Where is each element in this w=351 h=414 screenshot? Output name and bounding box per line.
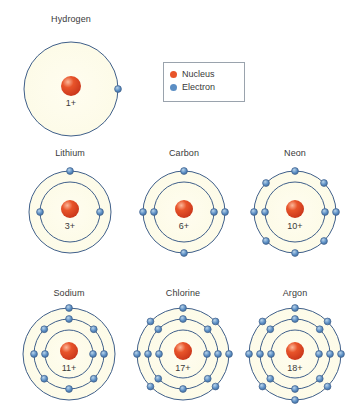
electron (263, 238, 270, 245)
atom-argon: Argon18+ (240, 288, 350, 413)
electron (262, 209, 269, 216)
electron (316, 375, 323, 382)
electron (316, 351, 323, 358)
electron (155, 375, 162, 382)
electron (324, 318, 331, 325)
electron (97, 209, 104, 216)
atom-hydrogen: Hydrogen1+ (12, 14, 130, 152)
nucleus (60, 342, 78, 360)
electron (211, 209, 218, 216)
electron (134, 351, 141, 358)
nucleus-charge-label: 1+ (66, 98, 76, 108)
electron (147, 318, 154, 325)
electron (316, 326, 323, 333)
electron (324, 383, 331, 390)
atom-shell-graphic: 1+ (12, 14, 130, 152)
nucleus (175, 200, 193, 218)
atom-diagram: Hydrogen1+Lithium3+Carbon6+Neon10+Sodium… (0, 0, 351, 414)
atom-shell-graphic: 6+ (132, 148, 236, 268)
electron (151, 209, 158, 216)
electron (204, 326, 211, 333)
legend-item-label: Nucleus (182, 70, 215, 79)
electron (251, 209, 258, 216)
electron (181, 168, 188, 175)
electron (42, 351, 49, 358)
legend-item-label: Electron (182, 83, 215, 92)
electron (90, 351, 97, 358)
atom-shell-graphic: 10+ (243, 148, 347, 268)
nucleus (61, 76, 81, 96)
nucleus-charge-label: 6+ (179, 221, 189, 231)
electron (215, 351, 222, 358)
electron (246, 351, 253, 358)
electron (226, 351, 233, 358)
electron (212, 318, 219, 325)
electron (321, 238, 328, 245)
legend-item-electron: Electron (170, 81, 236, 94)
electron (101, 351, 108, 358)
electron (292, 250, 299, 257)
electron (67, 168, 74, 175)
electron (267, 375, 274, 382)
nucleus (174, 342, 192, 360)
electron (37, 209, 44, 216)
electron (292, 397, 299, 404)
electron (145, 351, 152, 358)
electron (212, 383, 219, 390)
nucleus-charge-label: 3+ (65, 221, 75, 231)
nucleus (61, 200, 79, 218)
electron (204, 375, 211, 382)
electron (147, 383, 154, 390)
atom-shell-graphic: 11+ (14, 288, 124, 413)
nucleus-charge-label: 11+ (62, 363, 77, 373)
atom-carbon: Carbon6+ (132, 148, 236, 268)
atom-sodium: Sodium11+ (14, 288, 124, 413)
electron (321, 180, 328, 187)
electron (263, 180, 270, 187)
electron (259, 383, 266, 390)
atom-shell-graphic: 3+ (18, 148, 122, 268)
electron (90, 326, 97, 333)
electron (41, 326, 48, 333)
electron (115, 86, 122, 93)
electron (338, 351, 345, 358)
nucleus-charge-label: 10+ (287, 221, 302, 231)
nucleus-swatch-icon (170, 71, 177, 78)
electron (180, 305, 187, 312)
electron (292, 316, 299, 323)
nucleus (286, 342, 304, 360)
electron (322, 209, 329, 216)
atom-neon: Neon10+ (243, 148, 347, 268)
electron (66, 386, 73, 393)
atom-lithium: Lithium3+ (18, 148, 122, 268)
legend: NucleusElectron (163, 62, 245, 102)
electron (66, 316, 73, 323)
electron (180, 386, 187, 393)
nucleus-charge-label: 18+ (287, 363, 302, 373)
electron (181, 250, 188, 257)
nucleus (286, 200, 304, 218)
electron (204, 351, 211, 358)
electron (257, 351, 264, 358)
electron (140, 209, 147, 216)
electron (41, 375, 48, 382)
electron (268, 351, 275, 358)
nucleus-charge-label: 17+ (175, 363, 190, 373)
electron (156, 351, 163, 358)
electron (31, 351, 38, 358)
electron (180, 316, 187, 323)
legend-item-nucleus: Nucleus (170, 68, 236, 81)
electron (327, 351, 334, 358)
electron (292, 386, 299, 393)
electron (292, 305, 299, 312)
electron (155, 326, 162, 333)
atom-chlorine: Chlorine17+ (128, 288, 238, 413)
electron (90, 375, 97, 382)
atom-shell-graphic: 18+ (240, 288, 350, 413)
electron (66, 305, 73, 312)
electron (267, 326, 274, 333)
electron-swatch-icon (170, 84, 177, 91)
electron (333, 209, 340, 216)
atom-shell-graphic: 17+ (128, 288, 238, 413)
electron (259, 318, 266, 325)
